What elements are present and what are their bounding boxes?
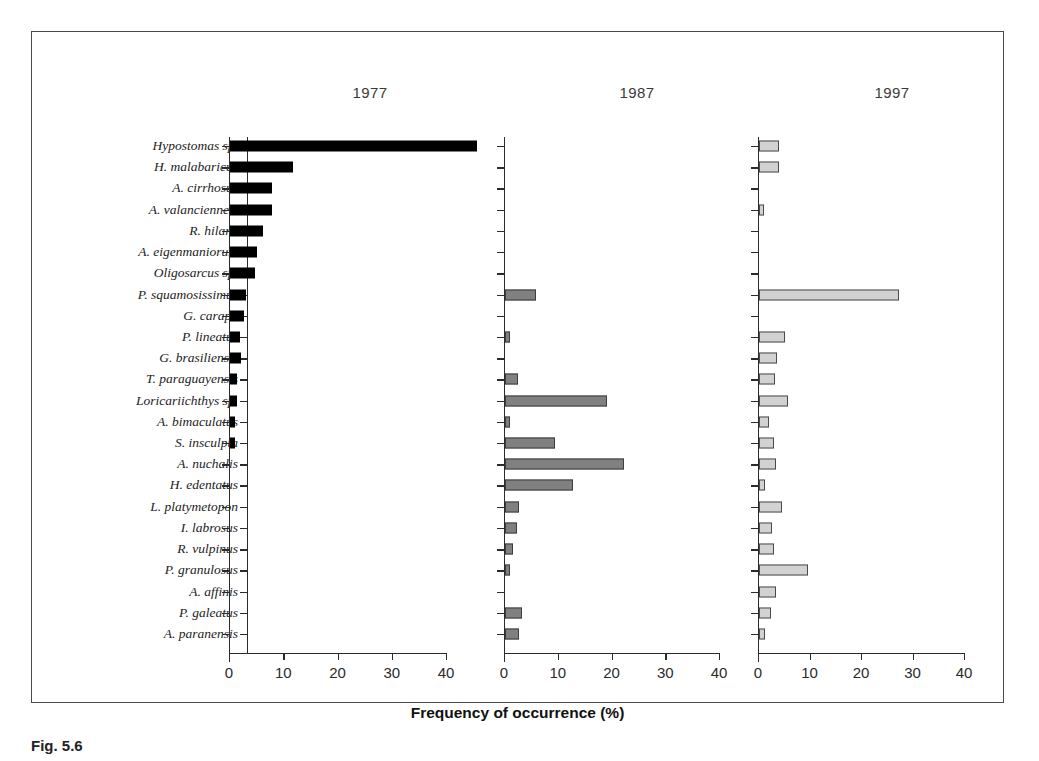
bar bbox=[505, 289, 536, 300]
panel-row-tick bbox=[497, 379, 505, 380]
bar bbox=[759, 353, 777, 364]
x-axis-tick-label: 0 bbox=[225, 664, 233, 681]
panel-row-tick bbox=[497, 613, 505, 614]
panel-row-tick bbox=[751, 485, 759, 486]
x-axis-tick-label: 30 bbox=[657, 664, 674, 681]
panel-row-tick bbox=[751, 146, 759, 147]
x-axis-tick bbox=[758, 646, 759, 662]
bar bbox=[230, 310, 244, 321]
x-axis-tick bbox=[229, 646, 230, 662]
panel-row-tick bbox=[497, 295, 505, 296]
panel-row-tick bbox=[222, 464, 230, 465]
panel-row-tick bbox=[751, 379, 759, 380]
x-axis-tick bbox=[446, 653, 447, 660]
bar bbox=[505, 565, 510, 576]
panel-row-tick bbox=[751, 592, 759, 593]
bar bbox=[505, 501, 519, 512]
x-axis-tick-label: 40 bbox=[438, 664, 455, 681]
axis-title: Frequency of occurrence (%) bbox=[32, 704, 1003, 722]
panel-row-tick bbox=[751, 210, 759, 211]
bar bbox=[759, 141, 779, 152]
x-axis-tick-label: 20 bbox=[853, 664, 870, 681]
bar bbox=[759, 395, 788, 406]
bar bbox=[505, 480, 573, 491]
figure-caption: Fig. 5.6 bbox=[31, 737, 83, 761]
x-axis-tick bbox=[861, 653, 862, 660]
bar bbox=[230, 141, 477, 152]
x-axis-tick-label: 10 bbox=[275, 664, 292, 681]
figure-frame: 1977 1987 1997 Hypostomas sp.H. malabari… bbox=[31, 31, 1004, 703]
x-axis-tick-label: 20 bbox=[603, 664, 620, 681]
panel-row-tick bbox=[751, 188, 759, 189]
panel-row-tick bbox=[497, 485, 505, 486]
panel-row-tick bbox=[497, 316, 505, 317]
x-axis-tick bbox=[504, 646, 505, 662]
panel-row-tick bbox=[222, 592, 230, 593]
panel-row-tick bbox=[751, 337, 759, 338]
panel-row-tick bbox=[751, 231, 759, 232]
panel-row-tick bbox=[751, 528, 759, 529]
panel-row-tick bbox=[497, 358, 505, 359]
bar bbox=[759, 607, 771, 618]
panel-row-tick bbox=[751, 401, 759, 402]
bar bbox=[759, 628, 765, 639]
panel-row-tick bbox=[222, 231, 230, 232]
bar bbox=[759, 586, 776, 597]
bar bbox=[505, 522, 517, 533]
panel-row-tick bbox=[751, 316, 759, 317]
panel-title-1997: 1997 bbox=[832, 84, 952, 101]
panel-row-tick bbox=[497, 507, 505, 508]
panel-1977: 010203040 bbox=[229, 137, 446, 653]
panel-row-tick bbox=[222, 295, 230, 296]
panel-row-tick bbox=[222, 401, 230, 402]
bar bbox=[759, 480, 765, 491]
panel-row-tick bbox=[222, 379, 230, 380]
panel-row-tick bbox=[751, 422, 759, 423]
panel-row-tick bbox=[222, 422, 230, 423]
bar bbox=[230, 247, 257, 258]
x-axis-tick bbox=[665, 653, 666, 660]
bar bbox=[759, 289, 899, 300]
x-axis-tick-label: 20 bbox=[329, 664, 346, 681]
bar bbox=[505, 331, 510, 342]
panel-row-tick bbox=[751, 252, 759, 253]
bar bbox=[230, 183, 272, 194]
panel-row-tick bbox=[497, 337, 505, 338]
panel-row-tick bbox=[751, 613, 759, 614]
panel-row-tick bbox=[222, 146, 230, 147]
panel-row-tick bbox=[222, 167, 230, 168]
panel-row-tick bbox=[751, 358, 759, 359]
panel-row-tick bbox=[222, 443, 230, 444]
panel-row-tick bbox=[751, 634, 759, 635]
x-axis-tick bbox=[612, 653, 613, 660]
panel-row-tick bbox=[222, 337, 230, 338]
bar bbox=[230, 353, 241, 364]
bar bbox=[505, 459, 624, 470]
panel-row-tick bbox=[751, 273, 759, 274]
panel-row-tick bbox=[222, 613, 230, 614]
panel-row-tick bbox=[222, 634, 230, 635]
bar bbox=[759, 374, 775, 385]
bar bbox=[505, 416, 510, 427]
panel-row-tick bbox=[222, 358, 230, 359]
x-axis-tick-label: 0 bbox=[500, 664, 508, 681]
bar bbox=[230, 395, 237, 406]
x-axis-tick-label: 10 bbox=[801, 664, 818, 681]
panel-row-tick bbox=[222, 528, 230, 529]
bar bbox=[230, 438, 235, 449]
panel-row-tick bbox=[497, 528, 505, 529]
panel-title-1977: 1977 bbox=[310, 84, 430, 101]
x-axis-tick-label: 30 bbox=[383, 664, 400, 681]
x-axis-tick bbox=[810, 653, 811, 660]
bar bbox=[230, 331, 240, 342]
panel-row-tick bbox=[497, 210, 505, 211]
x-axis-tick-label: 40 bbox=[711, 664, 728, 681]
panel-row-tick bbox=[497, 273, 505, 274]
panel-row-tick bbox=[497, 592, 505, 593]
panel-row-tick bbox=[497, 570, 505, 571]
panel-row-tick bbox=[751, 570, 759, 571]
bar bbox=[759, 416, 769, 427]
panel-row-tick bbox=[751, 507, 759, 508]
panel-row-tick bbox=[497, 422, 505, 423]
bar bbox=[230, 268, 255, 279]
